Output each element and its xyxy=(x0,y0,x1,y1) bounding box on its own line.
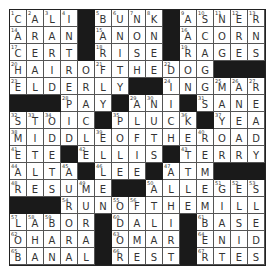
grid-cell[interactable]: L xyxy=(231,197,248,214)
grid-cell[interactable]: 23E xyxy=(10,78,27,95)
grid-cell[interactable]: L xyxy=(180,180,197,197)
grid-cell[interactable]: A xyxy=(231,129,248,146)
grid-cell[interactable]: 62O xyxy=(10,231,27,248)
grid-cell[interactable]: 55O xyxy=(112,197,129,214)
grid-cell[interactable]: O xyxy=(214,27,231,44)
grid-cell[interactable]: E xyxy=(180,129,197,146)
grid-cell[interactable]: 26A xyxy=(231,78,248,95)
grid-cell[interactable]: E xyxy=(129,163,146,180)
grid-cell[interactable]: I xyxy=(231,231,248,248)
grid-cell[interactable]: E xyxy=(112,163,129,180)
grid-cell[interactable]: R xyxy=(78,214,95,231)
grid-cell[interactable]: L xyxy=(27,78,44,95)
grid-cell[interactable]: 33T xyxy=(27,112,44,129)
grid-cell[interactable]: 8K xyxy=(146,10,163,27)
grid-cell[interactable]: 47A xyxy=(163,163,180,180)
grid-cell[interactable]: A xyxy=(27,248,44,265)
grid-cell[interactable]: A xyxy=(27,61,44,78)
grid-cell[interactable]: 61B xyxy=(197,214,214,231)
grid-cell[interactable]: H xyxy=(129,61,146,78)
grid-cell[interactable]: L xyxy=(27,163,44,180)
grid-cell[interactable]: 35P xyxy=(112,112,129,129)
grid-cell[interactable]: O xyxy=(214,129,231,146)
grid-cell[interactable]: 48R xyxy=(10,180,27,197)
grid-cell[interactable]: D xyxy=(44,129,61,146)
grid-cell[interactable]: E xyxy=(146,61,163,78)
grid-cell[interactable]: 15A xyxy=(95,27,112,44)
grid-cell[interactable]: N xyxy=(146,27,163,44)
grid-cell[interactable]: T xyxy=(180,163,197,180)
grid-cell[interactable]: S xyxy=(248,44,265,61)
grid-cell[interactable]: I xyxy=(163,95,180,112)
grid-cell[interactable]: R xyxy=(163,231,180,248)
grid-cell[interactable]: H xyxy=(163,197,180,214)
grid-cell[interactable]: 21F xyxy=(95,61,112,78)
grid-cell[interactable]: 37Y xyxy=(214,112,231,129)
grid-cell[interactable]: A xyxy=(78,95,95,112)
grid-cell[interactable]: E xyxy=(146,44,163,61)
grid-cell[interactable]: L xyxy=(78,248,95,265)
grid-cell[interactable]: R xyxy=(231,27,248,44)
grid-cell[interactable]: 65B xyxy=(10,248,27,265)
grid-cell[interactable]: 28P xyxy=(61,95,78,112)
grid-cell[interactable]: S xyxy=(146,146,163,163)
grid-cell[interactable]: 18R xyxy=(95,44,112,61)
grid-cell[interactable]: 9A xyxy=(180,10,197,27)
grid-cell[interactable]: 3L xyxy=(44,10,61,27)
grid-cell[interactable]: 12E xyxy=(231,10,248,27)
grid-cell[interactable]: 59B xyxy=(44,214,61,231)
grid-cell[interactable]: 54R xyxy=(61,197,78,214)
grid-cell[interactable]: 5B xyxy=(95,10,112,27)
grid-cell[interactable]: H xyxy=(27,231,44,248)
grid-cell[interactable]: 63O xyxy=(112,231,129,248)
grid-cell[interactable]: U xyxy=(146,112,163,129)
grid-cell[interactable]: 1C xyxy=(10,10,27,27)
grid-cell[interactable]: 44A xyxy=(10,163,27,180)
grid-cell[interactable]: 7N xyxy=(129,10,146,27)
grid-cell[interactable]: A xyxy=(61,248,78,265)
grid-cell[interactable]: I xyxy=(44,61,61,78)
grid-cell[interactable]: C xyxy=(163,112,180,129)
grid-cell[interactable]: I xyxy=(112,44,129,61)
grid-cell[interactable]: T xyxy=(112,61,129,78)
grid-cell[interactable]: L xyxy=(95,146,112,163)
grid-cell[interactable]: N xyxy=(180,78,197,95)
grid-cell[interactable]: 29A xyxy=(129,95,146,112)
grid-cell[interactable]: H xyxy=(163,129,180,146)
grid-cell[interactable]: R xyxy=(231,146,248,163)
grid-cell[interactable]: O xyxy=(78,61,95,78)
grid-cell[interactable]: G xyxy=(214,44,231,61)
grid-cell[interactable]: 42E xyxy=(78,146,95,163)
grid-cell[interactable]: N xyxy=(248,27,265,44)
grid-cell[interactable]: R xyxy=(78,78,95,95)
grid-cell[interactable]: 40R xyxy=(197,129,214,146)
grid-cell[interactable]: E xyxy=(231,44,248,61)
grid-cell[interactable]: 11N xyxy=(214,10,231,27)
grid-cell[interactable]: 22D xyxy=(163,61,180,78)
grid-cell[interactable]: D xyxy=(248,129,265,146)
grid-cell[interactable]: R xyxy=(214,146,231,163)
grid-cell[interactable]: L xyxy=(78,129,95,146)
grid-cell[interactable]: A xyxy=(129,214,146,231)
grid-cell[interactable]: L xyxy=(95,78,112,95)
grid-cell[interactable]: E xyxy=(248,95,265,112)
grid-cell[interactable]: D xyxy=(44,78,61,95)
grid-cell[interactable]: N xyxy=(61,27,78,44)
grid-cell[interactable]: A xyxy=(44,27,61,44)
grid-cell[interactable]: 39E xyxy=(95,129,112,146)
grid-cell[interactable]: D xyxy=(248,231,265,248)
grid-cell[interactable]: 4I xyxy=(61,10,78,27)
grid-cell[interactable]: E xyxy=(248,214,265,231)
grid-cell[interactable]: S xyxy=(44,180,61,197)
grid-cell[interactable]: E xyxy=(27,44,44,61)
grid-cell[interactable]: 43T xyxy=(180,146,197,163)
grid-cell[interactable]: L xyxy=(129,112,146,129)
grid-cell[interactable]: 13R xyxy=(248,10,265,27)
grid-cell[interactable]: N xyxy=(231,95,248,112)
grid-cell[interactable]: N xyxy=(95,197,112,214)
grid-cell[interactable]: 32S xyxy=(10,112,27,129)
grid-cell[interactable]: 64E xyxy=(197,231,214,248)
grid-cell[interactable]: E xyxy=(231,112,248,129)
grid-cell[interactable]: 24I xyxy=(163,78,180,95)
grid-cell[interactable]: U xyxy=(61,180,78,197)
